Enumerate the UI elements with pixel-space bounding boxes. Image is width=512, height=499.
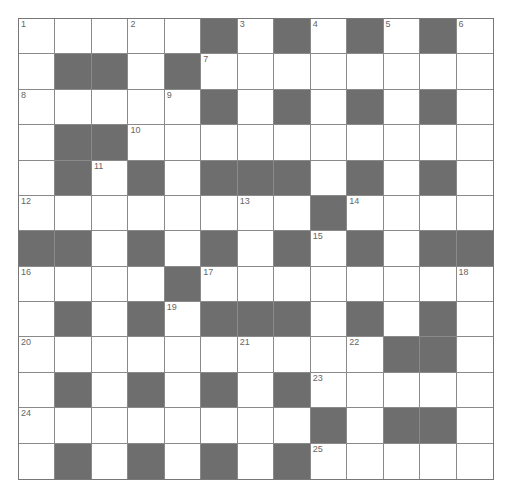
answer-cell[interactable] <box>92 19 128 54</box>
answer-cell[interactable] <box>420 373 456 408</box>
answer-cell[interactable]: 5 <box>384 19 420 54</box>
answer-cell[interactable] <box>19 373 55 408</box>
answer-cell[interactable] <box>201 408 237 443</box>
answer-cell[interactable] <box>311 267 347 302</box>
answer-cell[interactable] <box>384 231 420 266</box>
answer-cell[interactable]: 22 <box>347 337 383 372</box>
answer-cell[interactable] <box>55 267 91 302</box>
answer-cell[interactable] <box>128 196 164 231</box>
answer-cell[interactable] <box>384 54 420 89</box>
answer-cell[interactable] <box>457 161 493 196</box>
answer-cell[interactable] <box>128 337 164 372</box>
answer-cell[interactable] <box>92 231 128 266</box>
answer-cell[interactable] <box>420 444 456 479</box>
answer-cell[interactable] <box>457 302 493 337</box>
answer-cell[interactable] <box>128 54 164 89</box>
answer-cell[interactable]: 7 <box>201 54 237 89</box>
answer-cell[interactable] <box>165 337 201 372</box>
answer-cell[interactable] <box>457 373 493 408</box>
answer-cell[interactable] <box>420 125 456 160</box>
answer-cell[interactable] <box>92 90 128 125</box>
answer-cell[interactable] <box>311 302 347 337</box>
answer-cell[interactable] <box>92 267 128 302</box>
answer-cell[interactable] <box>457 408 493 443</box>
answer-cell[interactable] <box>238 125 274 160</box>
answer-cell[interactable] <box>420 54 456 89</box>
answer-cell[interactable]: 11 <box>92 161 128 196</box>
answer-cell[interactable] <box>165 444 201 479</box>
answer-cell[interactable] <box>201 196 237 231</box>
answer-cell[interactable] <box>384 302 420 337</box>
answer-cell[interactable] <box>274 125 310 160</box>
answer-cell[interactable] <box>55 408 91 443</box>
answer-cell[interactable] <box>311 125 347 160</box>
answer-cell[interactable] <box>384 267 420 302</box>
answer-cell[interactable] <box>311 161 347 196</box>
answer-cell[interactable] <box>128 408 164 443</box>
answer-cell[interactable]: 16 <box>19 267 55 302</box>
answer-cell[interactable] <box>55 196 91 231</box>
answer-cell[interactable] <box>238 373 274 408</box>
answer-cell[interactable] <box>92 408 128 443</box>
answer-cell[interactable] <box>165 125 201 160</box>
answer-cell[interactable] <box>274 267 310 302</box>
answer-cell[interactable] <box>457 196 493 231</box>
answer-cell[interactable] <box>92 444 128 479</box>
answer-cell[interactable] <box>128 90 164 125</box>
answer-cell[interactable] <box>238 90 274 125</box>
answer-cell[interactable]: 1 <box>19 19 55 54</box>
answer-cell[interactable] <box>165 196 201 231</box>
answer-cell[interactable]: 24 <box>19 408 55 443</box>
answer-cell[interactable] <box>384 90 420 125</box>
answer-cell[interactable] <box>128 267 164 302</box>
answer-cell[interactable] <box>274 196 310 231</box>
answer-cell[interactable] <box>420 196 456 231</box>
answer-cell[interactable]: 2 <box>128 19 164 54</box>
answer-cell[interactable]: 6 <box>457 19 493 54</box>
answer-cell[interactable] <box>347 125 383 160</box>
answer-cell[interactable] <box>55 19 91 54</box>
answer-cell[interactable] <box>384 125 420 160</box>
answer-cell[interactable]: 17 <box>201 267 237 302</box>
answer-cell[interactable] <box>238 444 274 479</box>
answer-cell[interactable] <box>165 373 201 408</box>
answer-cell[interactable] <box>92 196 128 231</box>
answer-cell[interactable] <box>347 54 383 89</box>
answer-cell[interactable] <box>19 125 55 160</box>
answer-cell[interactable]: 14 <box>347 196 383 231</box>
answer-cell[interactable]: 25 <box>311 444 347 479</box>
answer-cell[interactable] <box>55 337 91 372</box>
answer-cell[interactable] <box>420 267 456 302</box>
answer-cell[interactable] <box>311 54 347 89</box>
answer-cell[interactable]: 18 <box>457 267 493 302</box>
answer-cell[interactable] <box>274 337 310 372</box>
answer-cell[interactable] <box>457 444 493 479</box>
answer-cell[interactable] <box>165 161 201 196</box>
answer-cell[interactable] <box>384 444 420 479</box>
answer-cell[interactable] <box>457 54 493 89</box>
answer-cell[interactable] <box>165 408 201 443</box>
answer-cell[interactable]: 20 <box>19 337 55 372</box>
answer-cell[interactable] <box>19 54 55 89</box>
answer-cell[interactable]: 13 <box>238 196 274 231</box>
answer-cell[interactable] <box>19 161 55 196</box>
answer-cell[interactable] <box>238 408 274 443</box>
answer-cell[interactable] <box>311 90 347 125</box>
answer-cell[interactable] <box>274 408 310 443</box>
answer-cell[interactable] <box>165 231 201 266</box>
answer-cell[interactable] <box>238 54 274 89</box>
answer-cell[interactable] <box>274 54 310 89</box>
answer-cell[interactable]: 8 <box>19 90 55 125</box>
answer-cell[interactable] <box>19 302 55 337</box>
answer-cell[interactable] <box>384 373 420 408</box>
answer-cell[interactable] <box>55 90 91 125</box>
answer-cell[interactable] <box>457 125 493 160</box>
answer-cell[interactable]: 15 <box>311 231 347 266</box>
answer-cell[interactable]: 21 <box>238 337 274 372</box>
answer-cell[interactable] <box>238 267 274 302</box>
answer-cell[interactable]: 23 <box>311 373 347 408</box>
answer-cell[interactable] <box>457 90 493 125</box>
answer-cell[interactable] <box>92 337 128 372</box>
answer-cell[interactable] <box>457 337 493 372</box>
answer-cell[interactable] <box>347 373 383 408</box>
